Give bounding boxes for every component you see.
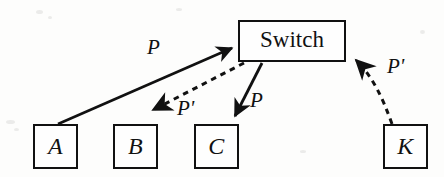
node-k[interactable]: K <box>383 124 428 169</box>
node-b-label: B <box>128 134 143 160</box>
edge-label-switch-to-c: P <box>250 90 263 111</box>
edge-label-k-to-switch: P' <box>387 56 404 77</box>
diagram-canvas: Switch A B C K P P' P P' <box>0 0 444 177</box>
node-b[interactable]: B <box>113 124 158 169</box>
edge-switch-to-b <box>153 63 244 110</box>
edge-label-switch-to-b: P' <box>177 98 194 119</box>
node-c[interactable]: C <box>194 124 239 169</box>
edge-a-to-switch <box>58 48 232 124</box>
node-switch-label: Switch <box>260 28 324 54</box>
node-k-label: K <box>397 134 414 160</box>
node-a-label: A <box>48 134 63 160</box>
node-a[interactable]: A <box>33 124 78 169</box>
node-switch[interactable]: Switch <box>238 20 346 62</box>
edge-label-a-to-switch: P <box>147 37 160 58</box>
node-c-label: C <box>208 134 225 160</box>
